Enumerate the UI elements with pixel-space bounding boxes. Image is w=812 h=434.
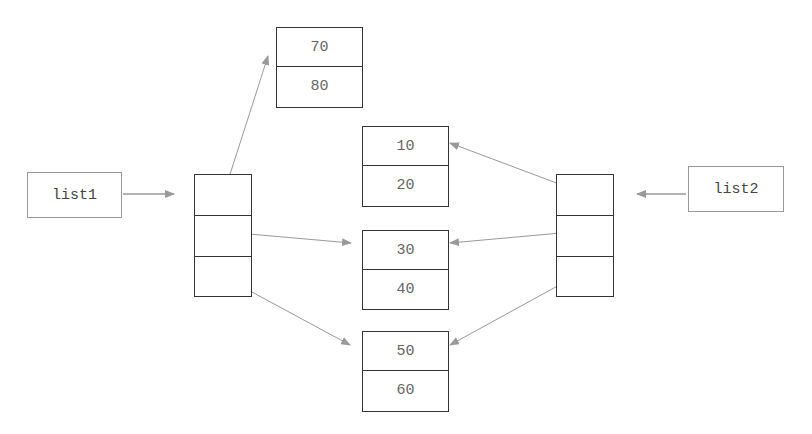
- node-value: 40: [363, 270, 448, 309]
- node-30-40: 30 40: [362, 230, 449, 310]
- right-array-cell: [557, 257, 613, 298]
- list1-text: list1: [52, 187, 97, 204]
- node-value: 20: [363, 166, 448, 205]
- right-array-cell: [557, 216, 613, 257]
- list2-text: list2: [713, 181, 758, 198]
- left-array-cell: [195, 216, 251, 257]
- node-70-80: 70 80: [276, 27, 363, 108]
- node-50-60: 50 60: [362, 331, 449, 412]
- list1-label: list1: [27, 172, 122, 218]
- node-10-20: 10 20: [362, 126, 449, 207]
- list2-label: list2: [688, 166, 784, 212]
- node-value: 70: [277, 28, 362, 67]
- arrow-left0-to-70: [224, 56, 268, 193]
- node-value: 30: [363, 231, 448, 270]
- right-array-cell: [557, 175, 613, 216]
- right-pointer-array: [556, 174, 614, 297]
- left-array-cell: [195, 257, 251, 298]
- node-value: 60: [363, 371, 448, 410]
- node-value: 80: [277, 67, 362, 106]
- node-value: 10: [363, 127, 448, 166]
- node-value: 50: [363, 332, 448, 371]
- left-pointer-array: [194, 174, 252, 297]
- left-array-cell: [195, 175, 251, 216]
- linked-list-diagram: list1 list2 70 80 10 20 30 40 50 60: [0, 0, 812, 434]
